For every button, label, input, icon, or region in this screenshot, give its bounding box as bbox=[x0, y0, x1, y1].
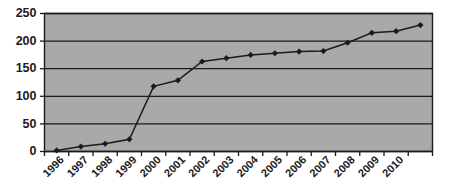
plot-area bbox=[45, 14, 433, 152]
y-axis-tick-label: 100 bbox=[16, 89, 37, 103]
y-axis-tick-label: 250 bbox=[16, 6, 37, 20]
line-chart: 050100150200250 199619971998199920002001… bbox=[0, 0, 465, 196]
y-axis-tick-label: 200 bbox=[16, 34, 37, 48]
chart-canvas: 050100150200250 199619971998199920002001… bbox=[0, 0, 465, 196]
y-axis-tick-label: 50 bbox=[23, 117, 37, 131]
y-axis-tick-label: 150 bbox=[16, 61, 37, 75]
y-axis-tick-label: 0 bbox=[30, 144, 37, 158]
